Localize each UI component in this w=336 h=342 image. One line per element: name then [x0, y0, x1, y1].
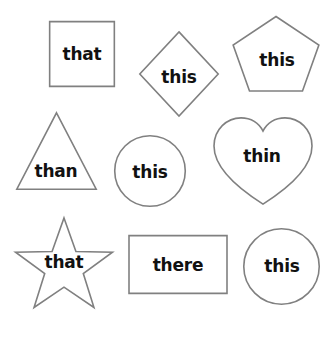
shape-word-square: that [62, 46, 101, 63]
shape-word-heart: thin [243, 148, 280, 165]
worksheet-canvas: thatthisthisthanthisthinthattherethis [0, 0, 336, 342]
shape-word-circle-middle: this [132, 164, 167, 181]
shape-word-circle-bottom: this [264, 258, 299, 275]
shape-word-triangle: than [34, 163, 77, 180]
shape-word-diamond: this [161, 69, 196, 86]
shape-word-pentagon: this [259, 52, 294, 69]
shape-word-rectangle: there [153, 257, 204, 274]
shape-word-star: that [44, 254, 83, 271]
